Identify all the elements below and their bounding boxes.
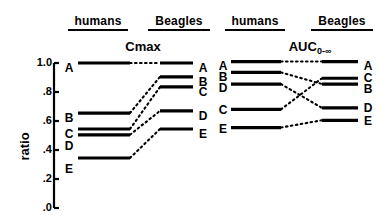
plot-canvas <box>0 0 380 223</box>
point-label-left-humans-B: B <box>62 111 76 125</box>
point-label-right-beagles-B: B <box>361 82 375 96</box>
point-label-left-beagles-E: E <box>196 127 210 141</box>
point-label-right-humans-E: E <box>216 122 230 136</box>
figure-root: humans Beagles humans Beagles Cmax AUC0-… <box>0 0 380 223</box>
point-label-left-humans-E: E <box>62 162 76 176</box>
connector-E <box>130 129 160 158</box>
point-label-left-humans-D: D <box>62 139 76 153</box>
point-label-right-beagles-D: D <box>361 101 375 115</box>
point-label-left-humans-A: A <box>62 61 76 75</box>
point-label-right-humans-C: C <box>216 103 230 117</box>
point-label-left-beagles-C: C <box>196 85 210 99</box>
point-label-right-humans-D: D <box>216 81 230 95</box>
series-group-cmax <box>78 63 193 158</box>
connector-D <box>281 84 322 108</box>
series-group-auc <box>231 62 358 128</box>
point-label-left-beagles-D: D <box>196 109 210 123</box>
point-label-right-beagles-E: E <box>361 114 375 128</box>
connector-E <box>281 120 322 127</box>
point-label-left-beagles-A: A <box>196 61 210 75</box>
